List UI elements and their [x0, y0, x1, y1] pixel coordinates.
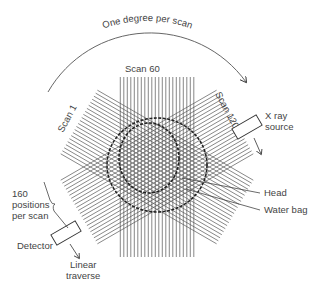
linear-traverse-label-line1: Linear — [70, 259, 96, 270]
head-label: Head — [264, 187, 287, 198]
scan-ray-line — [92, 145, 248, 235]
water-bag-label: Water bag — [264, 204, 307, 215]
scan-ray-line — [66, 99, 222, 189]
scan-1-label: Scan 1 — [55, 103, 79, 134]
scan-ray-line — [62, 93, 218, 183]
detector-box — [51, 221, 81, 245]
detector-traverse-arrow — [70, 244, 79, 258]
detector-label: Detector — [17, 240, 53, 251]
linear-traverse-label-line2: traverse — [66, 270, 100, 281]
source-traverse-arrow — [254, 138, 261, 154]
xray-source-label-line1: X ray — [265, 110, 287, 121]
scan-60-label: Scan 60 — [125, 63, 160, 74]
arc-label: One degree per scan — [101, 12, 194, 31]
scan-ray-line — [66, 145, 222, 235]
xray-source-label-line2: source — [265, 121, 294, 132]
ct-scan-diagram: One degree per scan Scan 60 Scan 1 Scan … — [0, 0, 314, 293]
positions-label-line1: 160 — [12, 188, 28, 199]
positions-label-line2: positions — [12, 199, 50, 210]
positions-label-line3: per scan — [12, 210, 48, 221]
